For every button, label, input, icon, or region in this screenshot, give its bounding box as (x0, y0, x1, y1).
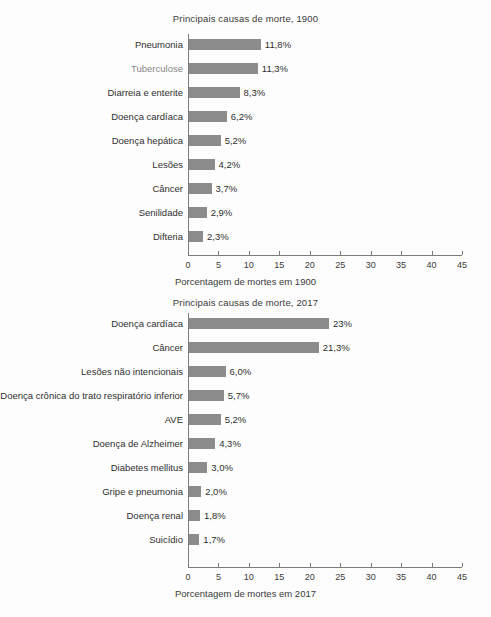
bar-category-label: Doença hepática (112, 134, 183, 147)
bar (189, 486, 201, 497)
x-axis-tick-label: 15 (264, 260, 294, 270)
x-axis-tick-label: 45 (447, 260, 477, 270)
bar-category-label: Tuberculose (131, 62, 183, 75)
bar-category-label: Pneumonia (135, 38, 183, 51)
x-axis-line (188, 567, 462, 568)
bar-row: Suicídio1,7% (188, 534, 189, 545)
bar-category-label: Lesões (152, 158, 183, 171)
x-axis-tick-label: 10 (234, 572, 264, 582)
bar-value-label: 5,2% (225, 413, 247, 426)
x-axis-tick (249, 251, 250, 255)
x-axis-tick-label: 30 (356, 260, 386, 270)
x-axis-tick-label: 0 (173, 260, 203, 270)
x-axis-tick-label: 10 (234, 260, 264, 270)
bar-value-label: 11,3% (262, 62, 288, 75)
chart-2017-x-axis-title: Porcentagem de mortes em 2017 (0, 588, 491, 599)
x-axis-tick (432, 563, 433, 567)
bar (189, 510, 200, 521)
chart-1900-title: Principais causas de morte, 1900 (0, 13, 491, 24)
x-axis-tick (432, 251, 433, 255)
x-axis-tick (249, 563, 250, 567)
x-axis-tick-label: 20 (295, 572, 325, 582)
bar-value-label: 1,8% (204, 509, 226, 522)
x-axis-tick-label: 35 (386, 572, 416, 582)
bar-category-label: Câncer (152, 182, 183, 195)
x-axis-tick (188, 563, 189, 567)
bar (189, 438, 215, 449)
x-axis-tick-label: 0 (173, 572, 203, 582)
chart-1900-x-axis-title: Porcentagem de mortes em 1900 (0, 276, 491, 287)
bar-row: Pneumonia11,8% (188, 39, 189, 50)
x-axis-tick-label: 40 (417, 260, 447, 270)
chart-2017-title: Principais causas de morte, 2017 (0, 297, 491, 308)
bar (189, 318, 329, 329)
bar-category-label: Doença cardíaca (111, 110, 183, 123)
x-axis-tick (371, 563, 372, 567)
x-axis-tick-label: 5 (203, 260, 233, 270)
bar-category-label: Doença renal (126, 509, 183, 522)
bar (189, 39, 261, 50)
x-axis-tick (340, 251, 341, 255)
x-axis-tick (401, 563, 402, 567)
bar-category-label: Suicídio (149, 533, 183, 546)
bar-value-label: 8,3% (244, 86, 266, 99)
bar (189, 111, 227, 122)
bar (189, 342, 319, 353)
bar-row: Doença cardíaca6,2% (188, 111, 189, 122)
x-axis-tick-label: 25 (325, 572, 355, 582)
bar-row: Câncer3,7% (188, 183, 189, 194)
bar-row: Doença renal1,8% (188, 510, 189, 521)
bar-row: Senilidade2,9% (188, 207, 189, 218)
bar-category-label: Senilidade (139, 206, 183, 219)
bar-category-label: Lesões não intencionais (81, 365, 183, 378)
bar (189, 183, 212, 194)
bar-category-label: Diabetes mellitus (111, 461, 183, 474)
x-axis-tick (462, 251, 463, 255)
x-axis-tick (188, 251, 189, 255)
x-axis-tick-label: 45 (447, 572, 477, 582)
bar (189, 414, 221, 425)
bar-value-label: 2,9% (211, 206, 233, 219)
bar-row: Doença de Alzheimer4,3% (188, 438, 189, 449)
bar-row: AVE5,2% (188, 414, 189, 425)
bar-category-label: AVE (165, 413, 183, 426)
bar-value-label: 6,2% (231, 110, 253, 123)
bar (189, 366, 226, 377)
x-axis-tick-label: 15 (264, 572, 294, 582)
bar-value-label: 3,0% (211, 461, 233, 474)
bar-row: Diarreia e enterite8,3% (188, 87, 189, 98)
bar (189, 207, 207, 218)
bar (189, 534, 199, 545)
bar-row: Câncer21,3% (188, 342, 189, 353)
bar-row: Lesões4,2% (188, 159, 189, 170)
bar-value-label: 1,7% (203, 533, 225, 546)
bar (189, 462, 207, 473)
x-axis-tick-label: 20 (295, 260, 325, 270)
bar-value-label: 2,0% (205, 485, 227, 498)
x-axis-tick (218, 563, 219, 567)
x-axis-line (188, 255, 462, 256)
bar-category-label: Diarreia e enterite (107, 86, 183, 99)
bar (189, 63, 258, 74)
x-axis-tick (462, 563, 463, 567)
document-page: Principais causas de morte, 1900 0510152… (0, 0, 491, 617)
x-axis-tick (279, 563, 280, 567)
bar-category-label: Doença crônica do trato respiratório inf… (0, 389, 183, 402)
bar (189, 231, 203, 242)
bar (189, 390, 224, 401)
bar-row: Difteria2,3% (188, 231, 189, 242)
x-axis-tick-label: 5 (203, 572, 233, 582)
x-axis-tick-label: 35 (386, 260, 416, 270)
bar-row: Doença crônica do trato respiratório inf… (188, 390, 189, 401)
bar-value-label: 2,3% (207, 230, 229, 243)
bar-row: Lesões não intencionais6,0% (188, 366, 189, 377)
bar-value-label: 23% (333, 317, 352, 330)
x-axis-tick (279, 251, 280, 255)
bar-value-label: 11,8% (265, 38, 291, 51)
bar-value-label: 5,2% (225, 134, 247, 147)
bar-category-label: Doença cardíaca (111, 317, 183, 330)
x-axis-tick-label: 40 (417, 572, 447, 582)
bar-category-label: Doença de Alzheimer (93, 437, 183, 450)
x-axis-tick (340, 563, 341, 567)
bar-row: Diabetes mellitus3,0% (188, 462, 189, 473)
